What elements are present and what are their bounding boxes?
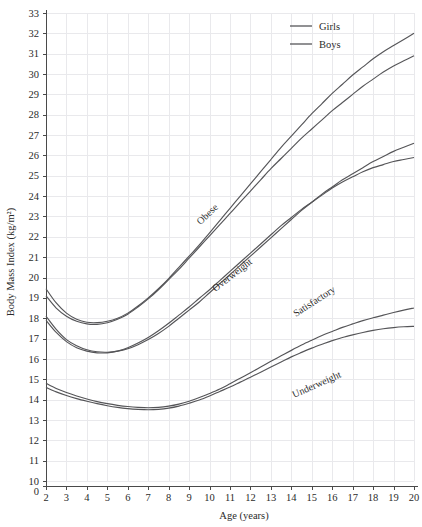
band-label-satisfactory: Satisfactory [291, 283, 337, 318]
y-tick-label: 18 [29, 313, 40, 324]
y-axis-tick-labels: 1011121314151617181920212223242526272829… [29, 8, 40, 497]
x-tick-label: 5 [105, 492, 110, 503]
y-tick-label: 30 [29, 69, 40, 80]
y-tick-label: 31 [29, 48, 40, 59]
chart-canvas: 1011121314151617181920212223242526272829… [0, 0, 422, 527]
x-tick-label: 15 [307, 492, 318, 503]
x-tick-label: 17 [347, 492, 358, 503]
y-tick-label: 32 [29, 28, 40, 39]
y-tick-label: 22 [29, 231, 40, 242]
y-tick-label: 21 [29, 252, 40, 263]
x-tick-label: 19 [388, 492, 399, 503]
y-tick-label: 12 [29, 435, 40, 446]
y-tick-label: 27 [29, 130, 40, 141]
x-tick-label: 20 [409, 492, 420, 503]
gridlines [46, 13, 415, 482]
x-tick-label: 8 [166, 492, 171, 503]
band-label-underweight: Underweight [290, 368, 342, 399]
x-axis-tick-labels: 234567891011121314151617181920 [43, 492, 419, 503]
y-tick-label: 10 [29, 476, 40, 487]
x-tick-label: 18 [368, 492, 379, 503]
axis-lines [46, 10, 418, 487]
legend-label-girls: Girls [319, 21, 340, 32]
x-tick-label: 16 [327, 492, 338, 503]
x-tick-label: 13 [266, 492, 277, 503]
y-tick-label: 11 [29, 455, 39, 466]
band-label-obese: Obese [194, 201, 220, 227]
y-tick-label: 29 [29, 89, 40, 100]
x-tick-label: 9 [186, 492, 191, 503]
tick-marks [43, 14, 415, 491]
bmi-chart: 1011121314151617181920212223242526272829… [0, 0, 422, 527]
y-tick-label: 28 [29, 109, 40, 120]
x-tick-label: 4 [84, 492, 90, 503]
band-label-overweight: Overweight [210, 256, 254, 294]
y-tick-label: 15 [29, 374, 40, 385]
x-tick-label: 12 [245, 492, 256, 503]
y-axis-title: Body Mass Index (kg/m²) [5, 207, 17, 316]
y-tick-label: 14 [29, 394, 40, 405]
y-tick-label: 26 [29, 150, 40, 161]
x-tick-label: 10 [204, 492, 215, 503]
y-tick-label: 13 [29, 415, 40, 426]
legend-label-boys: Boys [319, 39, 341, 50]
y-tick-label: 23 [29, 211, 40, 222]
y-tick-label-zero: 0 [34, 486, 39, 497]
x-tick-label: 2 [43, 492, 48, 503]
y-tick-label: 25 [29, 170, 40, 181]
x-tick-label: 14 [286, 492, 297, 503]
x-tick-label: 11 [225, 492, 235, 503]
x-axis-title: Age (years) [219, 510, 269, 522]
x-tick-label: 3 [64, 492, 69, 503]
y-tick-label: 17 [29, 333, 40, 344]
curve-band-labels: ObeseOverweightSatisfactoryUnderweight [194, 201, 342, 400]
y-tick-label: 24 [29, 191, 40, 202]
y-tick-label: 33 [29, 8, 40, 19]
y-tick-label: 19 [29, 292, 40, 303]
x-tick-label: 7 [146, 492, 151, 503]
legend: GirlsBoys [290, 21, 341, 50]
y-tick-label: 16 [29, 354, 40, 365]
y-tick-label: 20 [29, 272, 40, 283]
x-tick-label: 6 [125, 492, 130, 503]
